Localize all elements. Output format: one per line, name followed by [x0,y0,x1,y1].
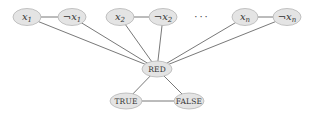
node-false: FALSE [174,93,204,109]
node-x2: x2 [106,9,134,26]
node-nx1: ¬x1 [58,9,86,26]
node-nx2: ¬x2 [149,9,177,26]
node-label: TRUE [114,97,137,106]
ellipsis-dots: ··· [194,11,210,22]
node-nxn: ¬xn [273,9,301,26]
reduction-graph-diagram: x1¬x1x2¬x2xn¬xnREDTRUEFALSE ··· [0,0,312,117]
edges-layer [27,17,287,101]
nodes-layer: x1¬x1x2¬x2xn¬xnREDTRUEFALSE [13,9,301,110]
node-true: TRUE [110,93,142,109]
node-label: FALSE [176,97,203,106]
edge-xn-red [157,17,245,69]
node-x1: x1 [13,9,41,26]
node-red: RED [142,61,172,77]
node-xn: xn [232,9,258,26]
node-label: RED [148,65,166,74]
edge-nxn-red [157,17,287,69]
edge-x1-red [27,17,157,69]
